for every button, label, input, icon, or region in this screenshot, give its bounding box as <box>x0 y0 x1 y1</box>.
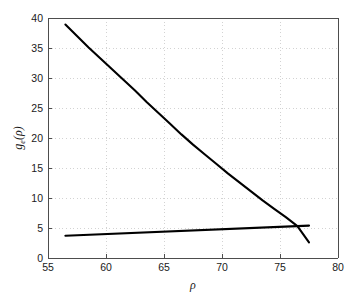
ytick-label-10: 10 <box>31 192 43 204</box>
xtick-label-60: 60 <box>100 261 112 273</box>
svg-text:ge(ρ): ge(ρ) <box>11 126 27 149</box>
ytick-labels: 0 5 10 15 20 25 30 35 40 <box>31 12 43 264</box>
y-axis-title-arg: (ρ) <box>11 126 25 140</box>
ytick-label-35: 35 <box>31 42 43 54</box>
ytick-label-40: 40 <box>31 12 43 24</box>
xtick-label-65: 65 <box>158 261 170 273</box>
ytick-label-30: 30 <box>31 72 43 84</box>
xtick-label-70: 70 <box>216 261 228 273</box>
ytick-label-15: 15 <box>31 162 43 174</box>
xtick-label-75: 75 <box>274 261 286 273</box>
ytick-label-25: 25 <box>31 102 43 114</box>
xtick-labels: 55 60 65 70 75 80 <box>42 261 344 273</box>
ytick-label-20: 20 <box>31 132 43 144</box>
ytick-label-5: 5 <box>37 222 43 234</box>
chart-plot-area: 0 5 10 15 20 25 30 35 40 55 60 65 70 75 … <box>0 0 362 301</box>
xtick-label-80: 80 <box>332 261 344 273</box>
chart-figure: 0 5 10 15 20 25 30 35 40 55 60 65 70 75 … <box>0 0 362 301</box>
xtick-label-55: 55 <box>42 261 54 273</box>
x-axis-title: ρ <box>189 278 196 292</box>
y-axis-title: ge(ρ) <box>11 126 27 149</box>
